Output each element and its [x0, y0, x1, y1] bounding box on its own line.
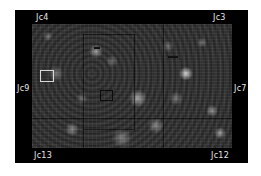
- gridline: [83, 34, 135, 35]
- gridline: [32, 118, 232, 119]
- label-bottom-right: Jc12: [211, 151, 229, 160]
- gridline: [83, 129, 135, 130]
- image-frame: Jc4 Jc3 Jc9 Jc7 Jc13 Jc12: [15, 10, 248, 163]
- gridline: [83, 34, 84, 148]
- dark-square-marker: [100, 90, 113, 101]
- white-square-marker: [40, 70, 54, 82]
- label-bottom-left: Jc13: [34, 151, 52, 160]
- dark-streak: [94, 47, 100, 49]
- star-field-image: [32, 24, 232, 148]
- label-top-left: Jc4: [36, 13, 49, 22]
- label-top-right: Jc3: [213, 13, 226, 22]
- label-middle-left: Jc9: [17, 84, 30, 93]
- label-middle-right: Jc7: [234, 84, 247, 93]
- dark-streak: [168, 56, 178, 58]
- gridline: [134, 34, 135, 129]
- gridline: [163, 24, 164, 148]
